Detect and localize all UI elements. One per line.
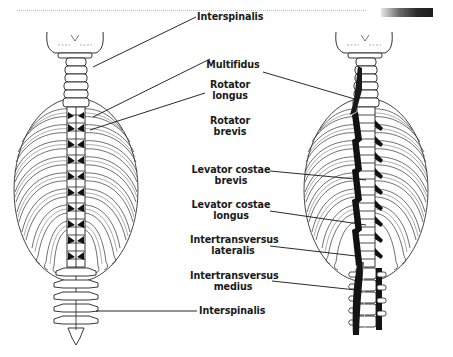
label-text-line-2: longus (208, 90, 252, 101)
label-levator-costae-brevis: Levator costae brevis (190, 164, 272, 186)
label-intertransversus-lateralis: Intertransversus lateralis (190, 234, 276, 256)
label-text-line-1: Levator costae (190, 164, 272, 175)
label-text-line-2: brevis (208, 126, 252, 137)
label-text-line-2: brevis (190, 175, 272, 186)
label-levator-costae-longus: Levator costae longus (190, 199, 272, 221)
label-text-line-1: Rotator (208, 79, 252, 90)
label-text: Multifidus (206, 59, 259, 70)
label-rotator-longus: Rotator longus (208, 79, 252, 101)
label-text-line-1: Intertransversus (190, 270, 276, 281)
label-text-line-1: Intertransversus (190, 234, 276, 245)
label-rotator-brevis: Rotator brevis (208, 115, 252, 137)
label-interspinalis-top: Interspinalis (197, 11, 263, 22)
label-text-line-2: lateralis (190, 245, 276, 256)
label-text: Interspinalis (197, 11, 263, 22)
right-spine-figure (304, 32, 428, 335)
label-text: Interspinalis (199, 305, 265, 316)
label-text-line-1: Rotator (208, 115, 252, 126)
label-multifidus: Multifidus (203, 59, 263, 70)
label-text-line-2: medius (190, 281, 276, 292)
label-text-line-2: longus (190, 210, 272, 221)
label-intertransversus-medius: Intertransversus medius (190, 270, 276, 292)
left-spine-figure (14, 32, 138, 345)
label-interspinalis-bottom: Interspinalis (199, 305, 265, 316)
label-text-line-1: Levator costae (190, 199, 272, 210)
